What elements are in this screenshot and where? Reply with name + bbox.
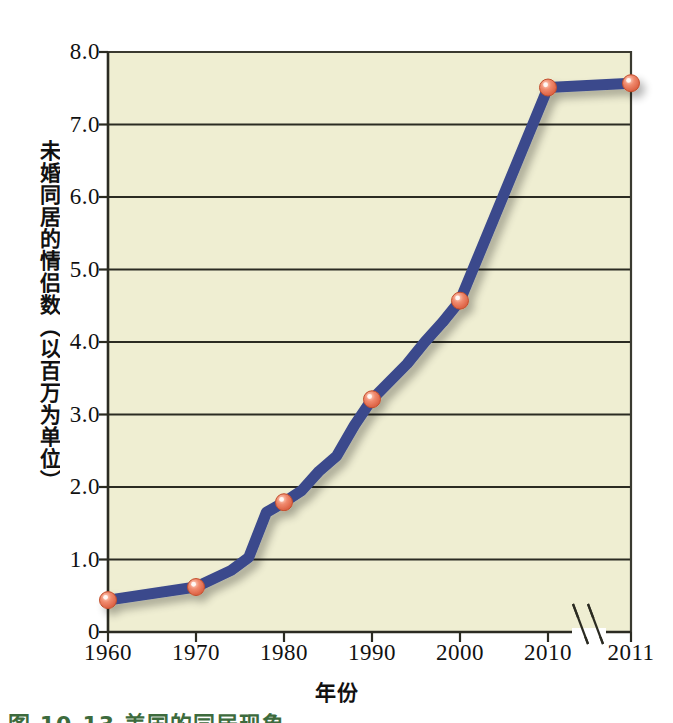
x-axis-tick-label: 1990 (348, 640, 396, 666)
x-axis-title: 年份 (0, 676, 673, 706)
x-axis-tick-label: 1970 (172, 640, 220, 666)
x-axis-tick-label: 2010 (524, 640, 572, 666)
figure-container: 未婚同居的情侣数（以百万为单位） 01.02.03.04.05.06.07.08… (0, 0, 673, 723)
figure-caption: 图 10-13 美国的同居现象 (8, 706, 548, 723)
x-axis-tick-label: 2000 (436, 640, 484, 666)
x-axis-tick-labels: 1960197019801990200020102011 (0, 0, 673, 723)
x-axis-tick-label: 1980 (260, 640, 308, 666)
x-axis-tick-label: 2011 (607, 640, 654, 666)
x-axis-tick-label: 1960 (84, 640, 132, 666)
